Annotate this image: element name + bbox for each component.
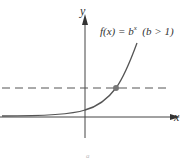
function-lhs: f(x) = b bbox=[100, 25, 134, 37]
exponential-curve bbox=[2, 43, 137, 116]
x-axis-label: x bbox=[174, 110, 179, 125]
figure-caption: a bbox=[86, 152, 90, 160]
function-label: f(x) = bx (b > 1) bbox=[100, 24, 174, 37]
intersection-point bbox=[113, 85, 119, 91]
function-condition: (b > 1) bbox=[142, 25, 173, 37]
y-axis-label: y bbox=[80, 4, 85, 19]
function-exponent: x bbox=[134, 24, 137, 32]
